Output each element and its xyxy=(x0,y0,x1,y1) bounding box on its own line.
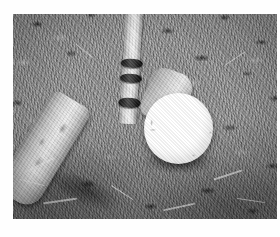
photo-caption xyxy=(13,221,277,235)
croquet-ball xyxy=(144,93,213,164)
photograph xyxy=(13,14,277,219)
croquet-ball-scuffs xyxy=(144,93,213,164)
photo-page xyxy=(0,0,280,237)
